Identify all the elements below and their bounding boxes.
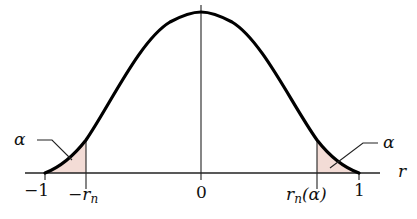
right-alpha-label: α <box>383 134 394 151</box>
left-tail-shade <box>45 140 86 173</box>
right-tail-shade <box>317 140 359 173</box>
tick-label-minus-one: −1 <box>24 182 49 199</box>
left-alpha-label: α <box>14 131 25 148</box>
tick-label-zero: 0 <box>196 184 207 201</box>
axis-label-r: r <box>398 163 406 180</box>
tick-label-rn-alpha: rn(α) <box>286 186 327 205</box>
tick-label-rn-suffix: (α) <box>302 184 327 204</box>
left-alpha-leader <box>37 140 72 160</box>
tick-label-minus-rn-main: −r <box>68 184 90 204</box>
tick-label-rn-main: r <box>286 184 294 204</box>
tick-label-rn-sub: n <box>294 192 302 206</box>
density-curve <box>45 12 359 173</box>
tick-label-minus-rn-sub: n <box>90 192 98 206</box>
tick-label-minus-rn: −rn <box>68 186 98 205</box>
tick-label-one: 1 <box>354 182 365 199</box>
